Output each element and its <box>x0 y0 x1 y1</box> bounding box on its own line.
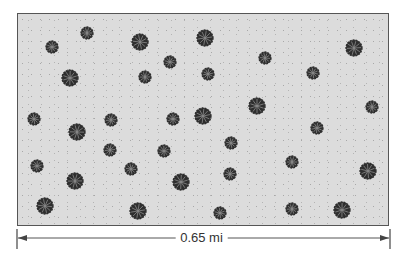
scale-label: 0.65 mi <box>175 229 228 247</box>
land-plot <box>17 13 389 226</box>
arrowhead-right-icon <box>380 235 389 241</box>
arrowhead-left-icon <box>18 235 27 241</box>
